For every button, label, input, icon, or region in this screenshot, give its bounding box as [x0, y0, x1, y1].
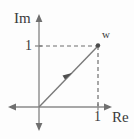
- vector-to-point-w: [39, 47, 97, 107]
- real-axis-right-arrowhead-icon: [104, 104, 112, 111]
- imaginary-axis-down-arrowhead-icon: [36, 123, 43, 131]
- imaginary-axis-label: Im: [14, 11, 31, 26]
- real-axis-tick-label: 1: [94, 110, 101, 124]
- point-marker-w: [96, 43, 100, 47]
- real-axis-label: Re: [112, 110, 129, 125]
- imaginary-axis-up-arrowhead-icon: [36, 14, 43, 22]
- real-axis-left-arrowhead-icon: [8, 104, 16, 111]
- argand-diagram-figure: Im Re 1 1 w: [0, 0, 134, 139]
- point-label-w: w: [102, 29, 110, 40]
- imaginary-axis-tick-label: 1: [25, 39, 32, 53]
